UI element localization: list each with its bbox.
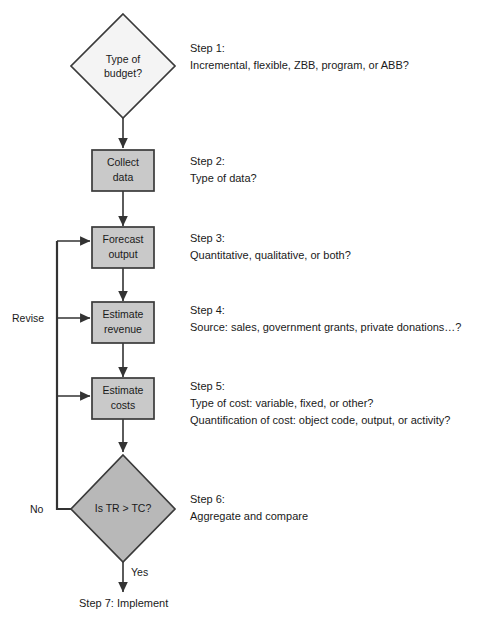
step-1-heading: Step 1: [190,42,225,54]
step-2-detail-1: Type of data? [190,172,257,184]
step-3-detail-1: Quantitative, qualitative, or both? [190,249,351,261]
node-estimate-revenue-line1: Estimate [103,308,144,320]
node-estimate-costs-line1: Estimate [103,384,144,396]
step-6-detail-1: Aggregate and compare [190,510,308,522]
step-6-heading: Step 6: [190,493,225,505]
feedback-loop-spine [57,241,71,509]
flowchart-diagram: Type of budget? Collect data Forecast ou… [0,0,482,621]
edge-label-no: No [30,503,44,515]
step-3-heading: Step 3: [190,232,225,244]
edge-label-yes: Yes [131,566,148,578]
node-type-of-budget-line1: Type of [106,53,141,65]
node-estimate-costs-line2: costs [111,399,136,411]
node-forecast-output-line1: Forecast [103,233,144,245]
step-1-detail-1: Incremental, flexible, ZBB, program, or … [190,59,409,71]
node-type-of-budget-line2: budget? [104,67,142,79]
node-forecast-output-line2: output [108,248,137,260]
step-4-heading: Step 4: [190,304,225,316]
node-estimate-revenue-line2: revenue [104,323,142,335]
step-2-heading: Step 2: [190,155,225,167]
step-4-detail-1: Source: sales, government grants, privat… [190,321,461,333]
step-5-detail-2: Quantification of cost: object code, out… [190,414,450,426]
node-collect-data-line1: Collect [107,156,139,168]
flowchart-page: Type of budget? Collect data Forecast ou… [0,0,482,621]
step-5-detail-1: Type of cost: variable, fixed, or other? [190,397,373,409]
step-5-heading: Step 5: [190,380,225,392]
node-is-tr-greater-tc-label: Is TR > TC? [95,502,152,514]
edge-label-revise: Revise [12,312,44,324]
node-collect-data-line2: data [113,171,134,183]
terminal-step-7-label: Step 7: Implement [79,597,168,609]
